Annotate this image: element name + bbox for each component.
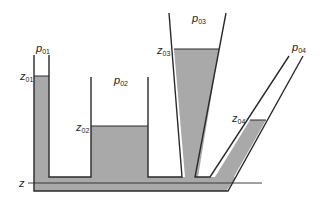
level-label-1: z01	[19, 70, 33, 83]
communicating-vessels-diagram: z p01 z01 p02 z02 p03 z03 p04 z04	[0, 0, 322, 204]
vessel-2-3-divider	[148, 13, 182, 177]
vessel-1-fluid	[34, 76, 49, 178]
level-label-3: z03	[156, 44, 170, 57]
vessel-walls	[34, 13, 303, 191]
pressure-label-2: p02	[113, 74, 128, 87]
base-channel-fluid	[34, 177, 236, 191]
pressure-label-3: p03	[191, 12, 206, 25]
vessel-1-2-divider	[49, 55, 91, 177]
pressure-label-1: p01	[35, 42, 50, 55]
vessel-2-fluid	[91, 126, 148, 178]
labels: z p01 z01 p02 z02 p03 z03 p04 z04	[18, 12, 306, 189]
level-label-4: z04	[231, 112, 245, 125]
pressure-label-4: p04	[291, 41, 306, 54]
reference-level-label: z	[18, 177, 25, 189]
level-label-2: z02	[75, 121, 89, 134]
